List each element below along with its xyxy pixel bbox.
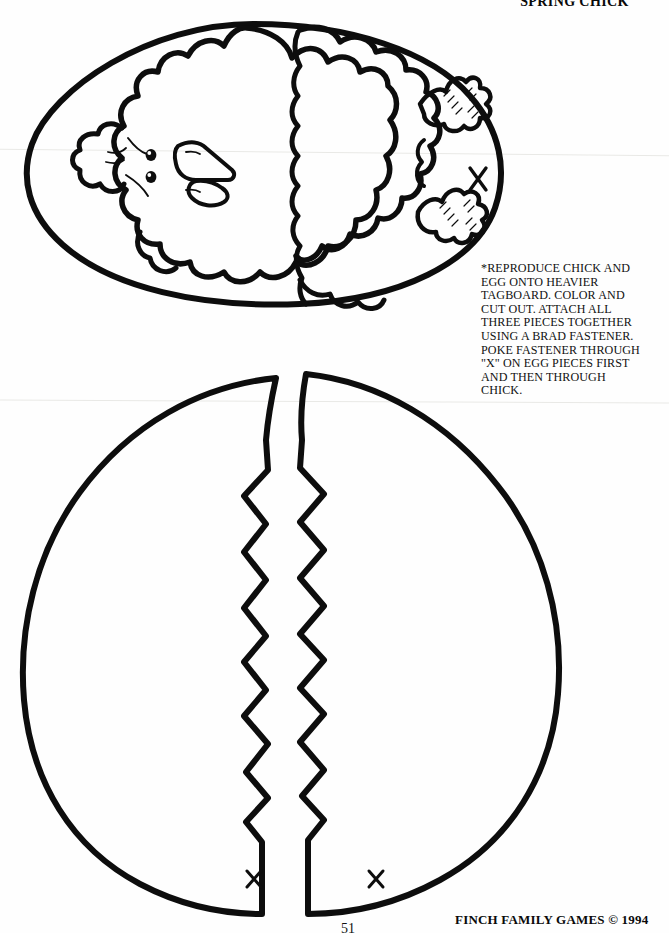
chick-beak-upper [175, 142, 234, 180]
chick-eye-highlight [147, 173, 151, 177]
egg-left-x-mark [247, 871, 261, 887]
chick-eye-lower [146, 171, 157, 183]
chick-figure [27, 24, 501, 309]
egg-half-right [300, 374, 559, 914]
chick-tail-hatching-lower [440, 200, 476, 230]
chick-beak-detail [186, 152, 200, 154]
chick-cheek-line [128, 138, 147, 154]
instructions-text: *REPRODUCE CHICK AND EGG ONTO HEAVIER TA… [481, 262, 667, 398]
chick-eye-upper [146, 149, 157, 161]
footer-credit: FINCH FAMILY GAMES © 1994 [455, 912, 665, 928]
page-number: 51 [318, 921, 378, 933]
worksheet-page: "SPRING CHICK" [0, 0, 669, 933]
chick-chin-line [126, 175, 148, 196]
chick-eye-highlight [147, 151, 151, 155]
egg-right-x-mark [369, 871, 383, 887]
craft-template-artwork [0, 0, 669, 933]
chick-x-mark [470, 168, 486, 190]
chick-beak-lower [189, 181, 228, 206]
egg-half-left [23, 378, 276, 914]
egg-figure [23, 374, 559, 914]
